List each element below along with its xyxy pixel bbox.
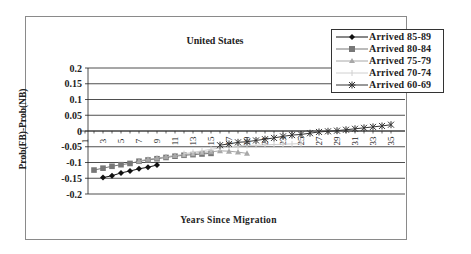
x-tick-label: 5: [116, 138, 126, 143]
legend-item: Arrived 60-69: [332, 79, 443, 91]
y-tick-label: 0.05: [65, 110, 83, 121]
legend-label: Arrived 70-74: [369, 67, 431, 79]
y-tick-label: 0.1: [70, 94, 83, 105]
diamond-marker-icon: [145, 164, 151, 170]
diamond-marker-icon: [136, 166, 142, 172]
diamond-marker-icon: [127, 168, 133, 174]
x-tick-label: 33: [368, 136, 378, 146]
legend-label: Arrived 85-89: [369, 31, 431, 43]
x-tick-label: 29: [332, 136, 342, 146]
legend-item: Arrived 85-89: [332, 31, 443, 43]
square-marker-icon: [118, 162, 124, 168]
square-marker-icon: [91, 167, 97, 173]
legend-item: Arrived 70-74: [332, 67, 443, 79]
diamond-marker-icon: [154, 162, 160, 168]
y-tick-label: 0.2: [70, 63, 83, 74]
x-tick-label: 11: [170, 137, 180, 146]
square-marker-icon: [334, 43, 370, 55]
x-tick-label: 9: [152, 138, 162, 143]
legend: Arrived 85-89 Arrived 80-84 Arrived 75-7…: [331, 29, 444, 93]
legend-label: Arrived 80-84: [369, 43, 431, 55]
y-axis-label: Prob(FB)-Prob(NB): [18, 74, 28, 184]
x-tick-label: 35: [386, 136, 396, 146]
x-tick-label: 13: [188, 136, 198, 146]
diamond-marker-icon: [100, 175, 106, 181]
legend-label: Arrived 75-79: [369, 55, 431, 67]
diamond-marker-icon: [118, 170, 124, 176]
square-marker-icon: [100, 165, 106, 171]
star-marker-icon: [334, 79, 370, 91]
triangle-marker-icon: [334, 55, 370, 67]
y-tick-label: -0.15: [61, 173, 82, 184]
y-tick-label: 0.15: [65, 78, 83, 89]
y-tick-label: -0.05: [61, 141, 82, 152]
plus-marker-icon: [334, 67, 370, 79]
x-axis-label: Years Since Migration: [0, 215, 471, 225]
x-tick-label: 7: [134, 138, 144, 143]
diamond-marker-icon: [109, 173, 115, 179]
legend-item: Arrived 80-84: [332, 43, 443, 55]
diamond-marker-icon: [334, 31, 370, 43]
x-axis-label-text: Years Since Migration: [180, 215, 277, 225]
square-marker-icon: [127, 161, 133, 167]
x-tick-label: 31: [350, 137, 360, 146]
legend-label: Arrived 60-69: [369, 79, 431, 91]
square-marker-icon: [109, 163, 115, 169]
y-tick-label: -0.1: [66, 157, 82, 168]
x-tick-label: 3: [98, 138, 108, 143]
x-tick-label: 1: [80, 139, 90, 144]
x-tick-label: 27: [314, 136, 324, 146]
x-tick-label: 15: [206, 136, 216, 146]
legend-item: Arrived 75-79: [332, 55, 443, 67]
y-tick-label: -0.2: [66, 189, 82, 200]
